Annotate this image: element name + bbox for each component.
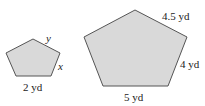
small-pentagon — [6, 39, 60, 76]
large-pentagon-side-right: 4 yd — [180, 58, 200, 70]
large-pentagon-side-top-right: 4.5 yd — [162, 10, 190, 22]
large-pentagon-side-bottom: 5 yd — [124, 91, 144, 103]
small-pentagon-side-x: x — [57, 60, 63, 72]
similar-pentagons-figure: y x 2 yd 4.5 yd 4 yd 5 yd — [0, 0, 205, 106]
small-pentagon-side-y: y — [45, 32, 51, 44]
small-pentagon-side-bottom: 2 yd — [23, 81, 43, 93]
